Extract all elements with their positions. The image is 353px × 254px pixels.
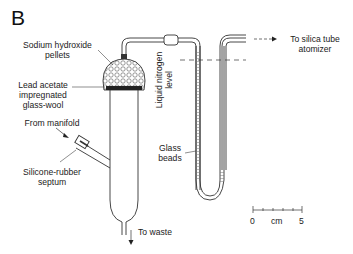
sodium-hydroxide-bulb: [103, 54, 145, 90]
scale-start-label: 0: [250, 216, 255, 226]
label-line: Silicone-rubber: [16, 167, 88, 177]
label-from-manifold: From manifold: [16, 118, 88, 128]
drying-column: [110, 90, 138, 235]
label-line: Liquid nitrogen: [154, 42, 164, 118]
from-manifold-arrow: [56, 128, 69, 138]
label-to-silica-tube-atomizer: To silica tube atomizer: [283, 34, 347, 54]
label-line: level: [164, 42, 174, 118]
label-silicone-rubber-septum: Silicone-rubber septum: [16, 167, 88, 187]
scale-unit-label: cm: [271, 216, 282, 226]
scale-end-label: 5: [299, 216, 304, 226]
to-silica-arrow: [254, 37, 277, 42]
label-liquid-nitrogen-level: Liquid nitrogen level: [154, 42, 174, 118]
label-glass-beads: Glass beads: [155, 143, 185, 163]
label-line: Glass: [155, 143, 185, 153]
label-line: beads: [155, 153, 185, 163]
label-line: glass-wool: [12, 100, 74, 110]
label-sodium-hydroxide: Sodium hydroxide pellets: [15, 40, 100, 60]
label-line: pellets: [15, 50, 100, 60]
label-line: Lead acetate: [12, 80, 74, 90]
to-waste-arrow: [129, 230, 134, 245]
label-line: septum: [16, 177, 88, 187]
label-line: atomizer: [283, 44, 347, 54]
label-line: Sodium hydroxide: [15, 40, 100, 50]
side-arm-inlet: [75, 135, 110, 168]
label-line: To silica tube: [283, 34, 347, 44]
label-to-waste: To waste: [138, 227, 172, 237]
label-lead-acetate: Lead acetate impregnated glass-wool: [12, 80, 74, 110]
scale-bar: [253, 206, 302, 213]
label-line: impregnated: [12, 90, 74, 100]
